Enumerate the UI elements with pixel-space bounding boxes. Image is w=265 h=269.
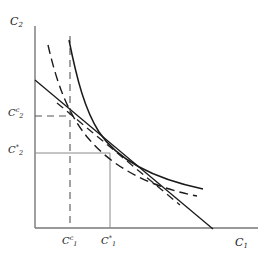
x-tick-c1-optimal: C*1 — [101, 236, 116, 246]
y-tick-c2-optimal: C*2 — [8, 145, 23, 155]
y-tick-c2-compensated: Cc2 — [8, 108, 23, 118]
plot-canvas — [0, 0, 265, 269]
x-tick-c1-compensated: Cc1 — [62, 236, 77, 246]
y-axis-label: C2 — [10, 16, 23, 27]
budget-line — [35, 80, 213, 229]
indifference-curve-solid — [69, 40, 203, 189]
x-axis-label: C1 — [235, 237, 248, 248]
economics-diagram: C2 C1 Cc2 C*2 Cc1 C*1 — [0, 0, 265, 269]
